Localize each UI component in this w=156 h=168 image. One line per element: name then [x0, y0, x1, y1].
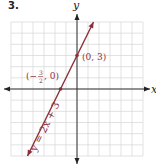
x-axis-arrow-right — [144, 87, 150, 92]
point-label: (0, 3) — [82, 52, 106, 62]
intercept-point — [75, 54, 79, 58]
point-label-close: , 0) — [44, 71, 59, 81]
intercept-point — [59, 87, 63, 91]
point-label-open: (− — [26, 71, 37, 81]
y-axis-label: y — [72, 0, 80, 12]
y-axis-arrow-down — [75, 158, 80, 164]
chart: 3. y x (0, 3)(−32, 0) y = 2x + 3 — [0, 0, 156, 168]
point-label: (−32, 0) — [26, 69, 59, 84]
point-label-denominator: 2 — [39, 77, 43, 84]
equation-label: y = 2x + 3 — [28, 100, 62, 154]
problem-number: 3. — [8, 0, 19, 11]
point-label-numerator: 3 — [39, 69, 43, 76]
y-axis-arrow-up — [75, 14, 80, 20]
x-axis-label: x — [151, 83, 156, 96]
x-axis-arrow-left — [4, 87, 10, 92]
axes — [4, 14, 150, 164]
